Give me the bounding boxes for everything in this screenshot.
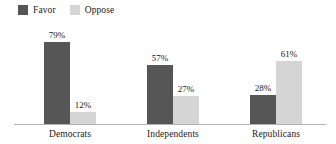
bar-democrats-oppose: 12% [70,20,96,124]
bar-independents-favor: 57% [147,20,173,124]
bar-democrats-favor: 79% [44,20,70,124]
bar-rect-republicans-favor [250,95,276,124]
bar-rect-democrats-favor [44,42,70,124]
bar-rect-independents-favor [147,65,173,124]
bar-group-independents: 57% 27% [147,20,199,124]
bar-group-democrats: 79% 12% [44,20,96,124]
category-label-independents: Independents [147,128,199,140]
bar-rect-independents-oppose [173,96,199,124]
x-axis-baseline [14,124,326,125]
bar-chart-plot-area: 79% 12% Democrats 57% 27% Independents 2… [0,0,336,144]
category-label-democrats: Democrats [44,128,96,140]
bar-value-republicans-oppose: 61% [281,49,298,60]
bar-value-independents-oppose: 27% [178,84,195,95]
bar-republicans-favor: 28% [250,20,276,124]
bar-value-republicans-favor: 28% [255,83,272,94]
bar-group-republicans: 28% 61% [250,20,302,124]
bar-value-democrats-oppose: 12% [75,100,92,111]
bar-value-independents-favor: 57% [152,53,169,64]
bar-value-democrats-favor: 79% [49,30,66,41]
category-label-republicans: Republicans [250,128,302,140]
bar-rect-democrats-oppose [70,112,96,124]
bar-independents-oppose: 27% [173,20,199,124]
bar-rect-republicans-oppose [276,61,302,124]
bar-republicans-oppose: 61% [276,20,302,124]
